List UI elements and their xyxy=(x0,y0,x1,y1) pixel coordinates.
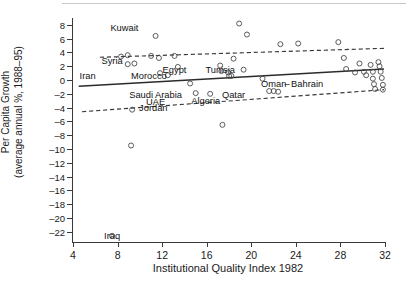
data-point xyxy=(371,82,376,87)
point-label-oman: Oman xyxy=(261,79,286,89)
point-label-syria: Syria xyxy=(102,56,123,66)
point-label-tunisia: Tunisia xyxy=(205,65,235,75)
point-label-jordan: Jordan xyxy=(139,103,167,113)
data-point xyxy=(132,61,137,66)
point-label-qatar: Qatar xyxy=(222,90,245,100)
data-point xyxy=(156,55,161,60)
data-point xyxy=(237,21,242,26)
data-point xyxy=(241,67,246,72)
point-label-algeria: Algeria xyxy=(191,96,220,106)
confidence-band-upper xyxy=(100,48,384,57)
point-label-iran: Iran xyxy=(80,71,96,81)
data-point xyxy=(172,53,177,58)
data-point xyxy=(370,76,375,81)
chart-figure: Per Capita Growth (average annual %, 198… xyxy=(0,0,408,283)
data-point xyxy=(125,62,130,67)
data-point xyxy=(379,75,384,80)
data-point xyxy=(125,53,130,58)
data-point xyxy=(193,91,198,96)
point-label-iraq: Iraq xyxy=(104,231,120,241)
data-point xyxy=(296,41,301,46)
data-point xyxy=(341,55,346,60)
data-point-markers xyxy=(110,21,386,238)
data-point xyxy=(220,122,225,127)
point-label-egypt: Egypt xyxy=(163,65,187,75)
data-point xyxy=(244,32,249,37)
scatter-canvas xyxy=(0,0,408,283)
data-point xyxy=(357,61,362,66)
data-point xyxy=(278,42,283,47)
data-point xyxy=(231,56,236,61)
data-point xyxy=(380,82,385,87)
point-label-bahrain: Bahrain xyxy=(291,79,323,89)
data-point xyxy=(373,86,378,91)
point-label-kuwait: Kuwait xyxy=(110,23,138,33)
data-point xyxy=(188,81,193,86)
point-label--: – xyxy=(284,79,289,89)
data-point xyxy=(129,143,134,148)
data-point xyxy=(153,33,158,38)
data-point xyxy=(378,69,383,74)
point-label-morocco: Morocco xyxy=(131,71,167,81)
data-point xyxy=(336,40,341,45)
data-point xyxy=(368,62,373,67)
